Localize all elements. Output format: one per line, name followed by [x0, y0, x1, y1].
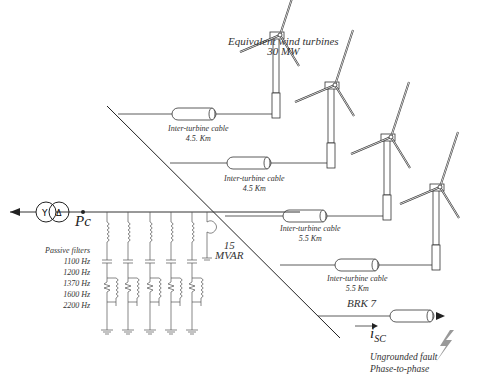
fault-cable [390, 310, 434, 322]
cable-4-label: Inter-turbine cable5.5 Km [327, 274, 388, 294]
arrow-left-icon [10, 208, 20, 216]
bus-label: Pc [75, 216, 91, 226]
cable-1-label: Inter-turbine cable4.5. Km [168, 124, 229, 144]
cable-2 [227, 157, 271, 169]
svg-text:Y: Y [41, 208, 48, 218]
svg-text:Δ: Δ [56, 209, 62, 218]
cable-2-label: Inter-turbine cable4.5 Km [224, 174, 285, 194]
turbine-4 [400, 132, 459, 270]
turbine-1 [240, 0, 299, 118]
fault-label: Ungrounded faultPhase-to-phase [370, 351, 437, 375]
current-label: iSC [370, 328, 386, 344]
cable-4 [335, 259, 379, 271]
cable-3-label: Inter-turbine cable5.5 Km [280, 224, 341, 244]
filters-label: Passive filters 1100 Hz 1200 Hz 1370 Hz … [45, 245, 90, 311]
arrow-right-icon [436, 312, 445, 320]
turbine-3 [351, 82, 410, 220]
title-label: Equivalent wind turbines30 MW [228, 36, 339, 56]
capacitor-label: 15MVAR [215, 240, 244, 260]
breaker-label: BRK 7 [347, 298, 376, 308]
lightning-icon [436, 330, 454, 362]
cable-1 [172, 108, 216, 120]
passive-filters [101, 212, 216, 334]
